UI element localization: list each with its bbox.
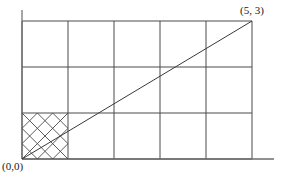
hatch-line-up-5: [22, 144, 68, 179]
crosshatch-pattern: [22, 67, 68, 179]
hatch-line-down-0: [22, 67, 68, 113]
hatch-line-up-0: [22, 67, 68, 113]
grid-diagram-svg: [0, 0, 282, 179]
hatch-line-down-5: [22, 144, 68, 179]
hatch-line-down-6: [22, 159, 68, 179]
origin-label: (0,0): [2, 161, 23, 172]
hatch-line-up-6: [22, 159, 68, 179]
diagram-canvas: (0,0) (5, 3): [0, 0, 282, 179]
ideal-line: [22, 21, 252, 159]
endpoint-label: (5, 3): [240, 5, 264, 16]
